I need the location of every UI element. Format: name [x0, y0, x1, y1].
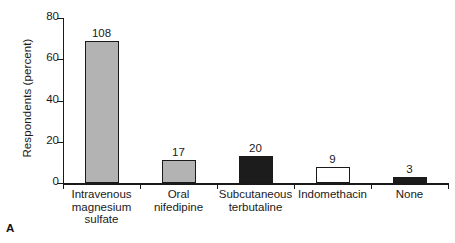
- bar: 17: [162, 160, 196, 183]
- y-tick-label: 0: [53, 175, 59, 187]
- x-category-label: Subcutaneousterbutaline: [217, 188, 294, 213]
- y-tick-label: 60: [46, 51, 59, 63]
- y-axis-spine: [63, 18, 64, 183]
- y-tick-label: 80: [46, 10, 59, 22]
- bar-value-label: 17: [172, 146, 185, 158]
- bar-value-label: 20: [249, 142, 262, 154]
- plot-area: 020406080 108172093: [63, 18, 448, 183]
- x-category-label: Intravenousmagnesiumsulfate: [63, 188, 140, 226]
- y-tick-label: 20: [46, 134, 59, 146]
- bar: 3: [393, 177, 427, 183]
- x-tick-mark: [448, 183, 449, 189]
- bar-value-label: 9: [329, 153, 335, 165]
- x-axis-spine: [63, 183, 448, 185]
- bar: 108: [85, 41, 119, 183]
- bar: 9: [316, 167, 350, 184]
- y-tick-label: 40: [46, 93, 59, 105]
- x-category-label: Indomethacin: [294, 188, 371, 201]
- x-category-label: None: [371, 188, 448, 201]
- panel-letter: A: [6, 222, 14, 234]
- bar-value-label: 3: [406, 163, 412, 175]
- bar-value-label: 108: [92, 27, 111, 39]
- bar: 20: [239, 156, 273, 183]
- figure-panel-a: Respondents (percent) 020406080 10817209…: [0, 0, 455, 243]
- x-category-label: Oralnifedipine: [140, 188, 217, 213]
- y-axis-title: Respondents (percent): [21, 8, 33, 188]
